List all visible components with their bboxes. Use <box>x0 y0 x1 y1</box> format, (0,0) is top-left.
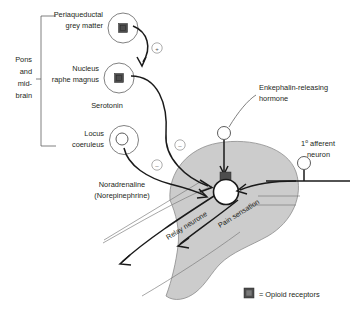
bracket-label-line-1: Pons <box>15 55 32 64</box>
afferent-label-line-1: 1o afferent <box>301 138 335 148</box>
nrm-label-line-2: raphe magnus <box>52 75 100 84</box>
sign-label-plus: + <box>155 46 159 52</box>
lc-label-line-1: Locus <box>84 129 104 138</box>
nrm-label-line-1: Nucleus <box>72 64 99 73</box>
sign-excitatory-pag-to-nrm: + <box>152 43 162 53</box>
bracket-label-line-4: brain <box>16 91 32 100</box>
pag-label-line-1: Periaqueductal <box>54 10 104 19</box>
lc-label-line-2: coeruleus <box>72 140 104 149</box>
bracket-label-line-3: mid- <box>18 79 33 88</box>
serotonin-label: Serotonin <box>91 101 123 110</box>
legend-receptor-inner <box>246 290 251 295</box>
sign-inhibitory-noradrenaline: – <box>152 160 162 170</box>
pain-pathway-diagram: Pons and mid- brain Periaqueductal grey … <box>0 0 350 318</box>
enkephalin-label-line-1: Enkephalin-releasing <box>259 83 328 92</box>
noradrenaline-label-line-1: Noradrenaline <box>99 180 145 189</box>
legend-text: = Opioid receptors <box>259 290 320 299</box>
enkephalin-leader-line <box>229 95 256 127</box>
legend: = Opioid receptors <box>244 288 320 299</box>
noradrenaline-label-line-2: (Norepinephrine) <box>94 191 149 200</box>
nucleus-periaqueductal-grey[interactable] <box>108 13 138 43</box>
nucleus-raphe-magnus[interactable] <box>104 63 134 93</box>
bracket-label-line-2: and <box>20 67 32 76</box>
opioid-receptor-inner <box>117 76 122 81</box>
pag-label-line-2: grey matter <box>66 21 104 30</box>
enkephalin-label-line-2: hormone <box>259 94 288 103</box>
opioid-receptor-inner <box>121 26 126 31</box>
sign-inhibitory-serotonin: – <box>175 140 185 150</box>
afferent-label-line-2: neuron <box>307 150 330 159</box>
pag-to-raphe-fibre <box>133 26 148 66</box>
